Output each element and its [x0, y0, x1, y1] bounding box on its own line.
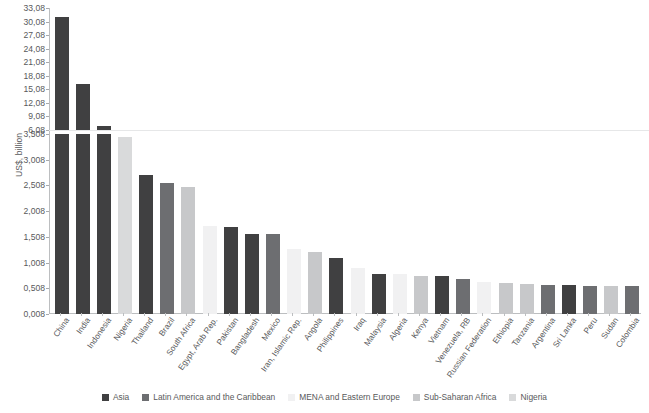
bar-lower — [308, 252, 322, 314]
x-axis-label: Peru — [582, 316, 599, 335]
bar-lower — [203, 226, 217, 314]
plot-area: 6,089,0812,0815,0818,0821,0824,0827,0830… — [49, 8, 641, 314]
x-tick-mark — [504, 313, 505, 316]
x-tick-mark — [144, 313, 145, 316]
bar-upper — [55, 17, 69, 130]
y-tick-label: 27,08 — [23, 30, 45, 40]
legend-swatch-icon — [102, 394, 109, 401]
x-tick-mark — [229, 313, 230, 316]
y-tick-label: 3,508 — [23, 129, 45, 139]
tick-mark — [46, 89, 49, 90]
x-tick-mark — [208, 313, 209, 316]
bar-lower — [118, 137, 132, 314]
legend-item[interactable]: MENA and Eastern Europe — [288, 392, 400, 402]
x-tick-mark — [123, 313, 124, 316]
y-tick-label: 2,508 — [23, 180, 45, 190]
y-tick-label: 0,008 — [23, 309, 45, 319]
y-tick-label: 15,08 — [23, 84, 45, 94]
x-axis-label: China — [51, 316, 71, 339]
tick-mark — [46, 76, 49, 77]
bar-lower — [139, 175, 153, 314]
x-tick-mark — [292, 313, 293, 316]
x-axis-label: Kenya — [410, 316, 431, 340]
legend-item[interactable]: Sub-Saharan Africa — [413, 392, 497, 402]
bar-lower — [541, 285, 555, 314]
x-tick-mark — [461, 313, 462, 316]
x-tick-mark — [250, 313, 251, 316]
x-axis-label: Sudan — [600, 316, 621, 341]
bar-lower — [435, 276, 449, 314]
legend-swatch-icon — [288, 394, 295, 401]
bar-lower — [351, 268, 365, 314]
tick-mark — [46, 314, 49, 315]
legend-label: Sub-Saharan Africa — [424, 392, 497, 402]
x-tick-mark — [377, 313, 378, 316]
y-tick-label: 21,08 — [23, 57, 45, 67]
legend-item[interactable]: Asia — [102, 392, 129, 402]
legend-label: Asia — [113, 392, 129, 402]
legend-item[interactable]: Latin America and the Caribbean — [142, 392, 275, 402]
x-tick-mark — [546, 313, 547, 316]
bar-lower — [499, 283, 513, 314]
tick-mark — [46, 62, 49, 63]
bar-lower — [456, 279, 470, 314]
y-tick-label: 12,08 — [23, 98, 45, 108]
x-axis-label: Iraq — [351, 316, 366, 333]
tick-mark — [46, 103, 49, 104]
x-axis-label: Iran, Islamic Rep. — [260, 316, 304, 373]
axis-break-rule — [49, 130, 649, 131]
tick-mark — [46, 134, 49, 135]
tick-mark — [46, 22, 49, 23]
bar-upper — [97, 126, 111, 130]
chart-legend: AsiaLatin America and the CaribbeanMENA … — [0, 392, 649, 402]
y-tick-label: 9,08 — [28, 111, 45, 121]
legend-label: MENA and Eastern Europe — [299, 392, 400, 402]
x-tick-mark — [440, 313, 441, 316]
x-tick-mark — [482, 313, 483, 316]
bar-lower — [372, 274, 386, 314]
tick-mark — [46, 211, 49, 212]
x-tick-mark — [609, 313, 610, 316]
y-tick-label: 18,08 — [23, 71, 45, 81]
x-tick-mark — [102, 313, 103, 316]
bar-lower — [224, 227, 238, 314]
legend-label: Nigeria — [520, 392, 547, 402]
x-tick-mark — [313, 313, 314, 316]
bar-lower — [245, 234, 259, 314]
bar-upper — [76, 84, 90, 130]
tick-mark — [46, 8, 49, 9]
bar-lower — [55, 134, 69, 314]
x-tick-mark — [271, 313, 272, 316]
y-tick-label: 1,508 — [23, 232, 45, 242]
y-tick-label: 24,08 — [23, 44, 45, 54]
x-tick-mark — [356, 313, 357, 316]
tick-mark — [46, 49, 49, 50]
y-tick-label: 0,508 — [23, 283, 45, 293]
legend-swatch-icon — [509, 394, 516, 401]
upper-panel: 6,089,0812,0815,0818,0821,0824,0827,0830… — [49, 8, 641, 130]
x-tick-mark — [525, 313, 526, 316]
x-tick-mark — [186, 313, 187, 316]
y-tick-label: 1,008 — [23, 258, 45, 268]
x-axis-labels: ChinaIndiaIndonesiaNigeriaThailandBrazil… — [49, 316, 649, 396]
tick-mark — [46, 288, 49, 289]
legend-swatch-icon — [413, 394, 420, 401]
x-axis-label: India — [75, 316, 93, 336]
bar-lower — [160, 183, 174, 314]
x-tick-mark — [588, 313, 589, 316]
bar-lower — [604, 286, 618, 314]
x-tick-mark — [81, 313, 82, 316]
x-tick-mark — [165, 313, 166, 316]
tick-mark — [46, 185, 49, 186]
bar-lower — [414, 276, 428, 314]
bar-lower — [393, 274, 407, 314]
x-tick-mark — [630, 313, 631, 316]
bar-lower — [625, 286, 639, 314]
bar-chart: US$, billion 6,089,0812,0815,0818,0821,0… — [0, 0, 649, 413]
x-tick-mark — [60, 313, 61, 316]
tick-mark — [46, 237, 49, 238]
tick-mark — [46, 263, 49, 264]
y-tick-label: 3,008 — [23, 155, 45, 165]
legend-item[interactable]: Nigeria — [509, 392, 547, 402]
tick-mark — [46, 160, 49, 161]
